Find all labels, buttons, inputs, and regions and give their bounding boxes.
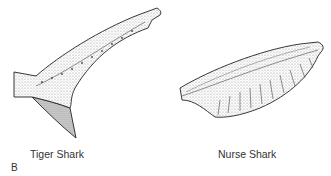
- tiger-shark-label: Tiger Shark: [30, 148, 84, 160]
- panel-label: B: [11, 162, 18, 173]
- nurse-shark-label: Nurse Shark: [218, 148, 276, 160]
- tiger-shark-tail-drawing: [14, 8, 161, 138]
- nurse-shark-tail-drawing: [180, 42, 323, 117]
